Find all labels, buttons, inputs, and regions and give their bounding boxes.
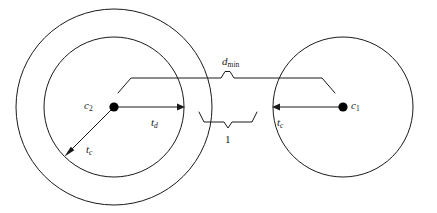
gap-brace xyxy=(199,112,257,128)
right-center-dot xyxy=(338,102,347,111)
left-center-dot xyxy=(109,102,118,111)
label-dmin: dmin xyxy=(222,52,239,69)
label-tc-right: tc xyxy=(277,113,283,130)
label-tc-left: tc xyxy=(86,140,92,157)
label-c2: c2 xyxy=(84,96,93,113)
label-c1: c1 xyxy=(351,96,360,113)
label-td: td xyxy=(151,113,158,130)
diagram-canvas xyxy=(0,0,437,213)
dmin-brace xyxy=(118,72,335,94)
label-gap-one: 1 xyxy=(225,130,231,146)
figure-container: c2 c1 td tc tc dmin 1 xyxy=(0,0,437,213)
